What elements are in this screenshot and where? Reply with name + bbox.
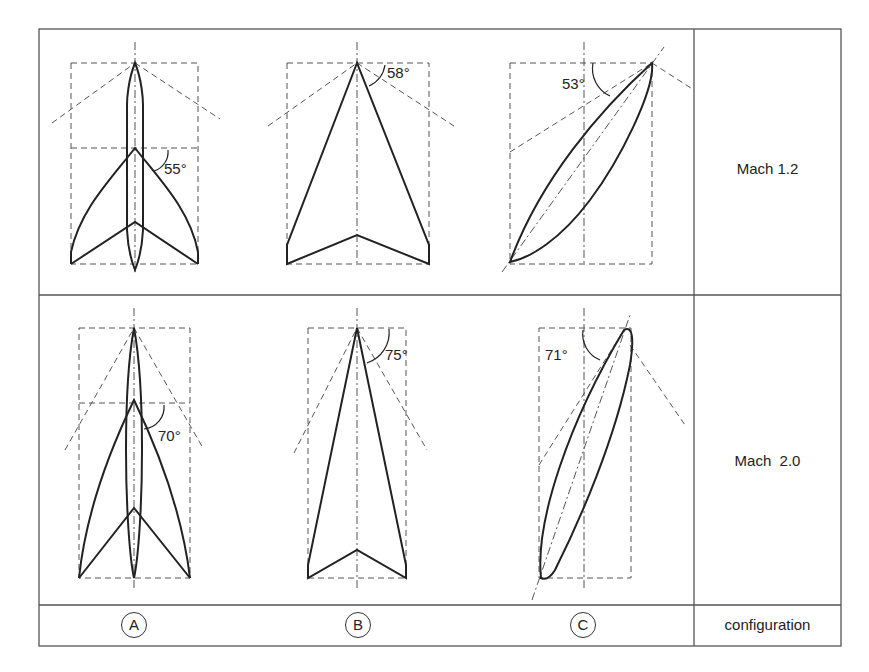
row-label-mach-1-2: Mach 1.2: [694, 160, 841, 177]
configuration-header: configuration: [694, 616, 841, 633]
diagram-canvas: [0, 0, 869, 672]
config-a-mach20-drawing: [65, 308, 203, 590]
angle-label-b-mach12: 58°: [387, 64, 410, 81]
table-grid: [39, 29, 841, 646]
angle-label-a-mach20: 70°: [158, 427, 181, 444]
config-label-b: B: [345, 612, 371, 638]
config-a-mach12-drawing: [52, 42, 220, 272]
angle-label-a-mach12: 55°: [164, 160, 187, 177]
config-b-mach12-drawing: [268, 42, 454, 264]
row-label-mach-2-0: Mach 2.0: [694, 452, 841, 469]
angle-label-c-mach20: 71°: [545, 346, 568, 363]
config-label-a: A: [121, 612, 147, 638]
angle-label-b-mach20: 75°: [385, 346, 408, 363]
angle-label-c-mach12: 53°: [562, 75, 585, 92]
config-c-mach12-drawing: [502, 42, 694, 272]
config-label-c: C: [570, 612, 596, 638]
